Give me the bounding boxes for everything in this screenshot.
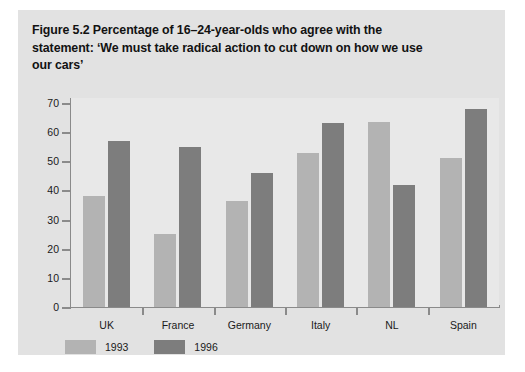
bar-uk-1996 [108,141,130,307]
bar-group [71,103,142,307]
y-axis-tick-label: 50 [47,155,59,167]
y-axis-tick-mark [62,161,71,163]
x-axis-label-spain: Spain [450,319,477,331]
y-axis-tick-mark [62,132,71,134]
y-axis-tick-label: 10 [47,272,59,284]
y-axis-tick-mark [62,249,71,251]
figure-title: Figure 5.2 Percentage of 16–24-year-olds… [32,22,432,75]
bar-italy-1996 [322,123,344,307]
x-axis-tick-mark [142,307,144,315]
legend-item-1993: 1993 [65,340,128,354]
x-axis-tick-mark [356,307,358,315]
bar-uk-1993 [83,196,105,307]
x-axis-label-italy: Italy [311,319,330,331]
x-axis-label-france: France [162,319,195,331]
y-axis-tick-mark [62,103,71,105]
y-axis-tick-label: 60 [47,126,59,138]
bar-france-1996 [179,147,201,307]
plot-inner: UKFranceGermanyItalyNLSpain [71,103,499,307]
bar-spain-1993 [440,158,462,307]
bar-germany-1996 [251,173,273,307]
y-axis-tick-mark [62,278,71,280]
x-axis-tick-mark [285,307,287,315]
bar-italy-1993 [297,153,319,307]
bar-nl-1993 [368,122,390,307]
bar-group [356,103,427,307]
legend-swatch-1996 [154,340,185,354]
y-axis-tick-label: 0 [53,301,59,313]
bar-spain-1996 [465,109,487,307]
legend-label-1993: 1993 [105,341,128,353]
y-axis-tick-label: 40 [47,184,59,196]
bar-group [142,103,213,307]
legend-label-1996: 1996 [194,341,217,353]
bar-germany-1993 [226,201,248,307]
y-axis-tick-mark [62,190,71,192]
x-axis-label-uk: UK [99,319,114,331]
x-axis-tick-mark [214,307,216,315]
x-axis-label-nl: NL [385,319,398,331]
bar-group [214,103,285,307]
plot-area: 010203040506070 UKFranceGermanyItalyNLSp… [71,98,499,307]
bar-group [285,103,356,307]
y-axis-tick-mark [62,307,71,309]
y-axis-tick-label: 70 [47,97,59,109]
legend-swatch-1993 [65,340,96,354]
figure-panel: Figure 5.2 Percentage of 16–24-year-olds… [18,10,505,355]
x-axis-tick-mark [428,307,430,315]
bar-group [428,103,499,307]
legend-item-1996: 1996 [154,340,217,354]
bar-france-1993 [154,234,176,307]
x-axis-label-germany: Germany [228,319,271,331]
y-axis-tick-label: 30 [47,214,59,226]
y-axis-tick-label: 20 [47,243,59,255]
chart-legend: 19931996 [65,340,218,354]
bar-nl-1996 [393,185,415,307]
y-axis-tick-mark [62,220,71,222]
